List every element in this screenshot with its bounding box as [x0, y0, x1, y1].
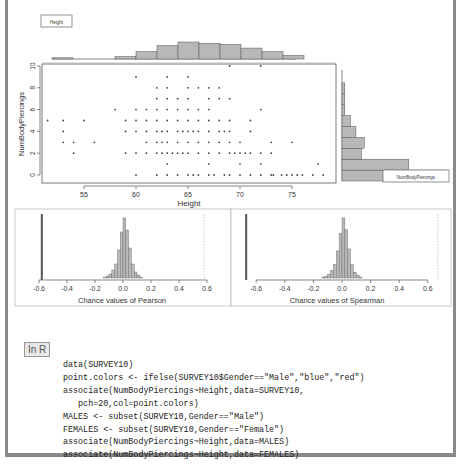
tick-label: 0.2: [366, 285, 376, 292]
permutation-bar: [140, 277, 143, 278]
scatter-x-tick-label: 75: [288, 191, 296, 198]
scatter-point: [224, 131, 226, 133]
scatter-point: [83, 120, 85, 122]
legend-height: Height: [41, 15, 72, 27]
tick-label: 0.0: [337, 285, 347, 292]
scatter-point: [291, 174, 293, 176]
scatter-point: [62, 120, 64, 122]
permutation-bar: [137, 275, 140, 278]
scatter-point: [270, 141, 272, 143]
permutation-bar: [131, 264, 134, 278]
scatter-point: [73, 141, 75, 143]
tick-label: -0.6: [33, 285, 45, 292]
scatter-point: [270, 152, 272, 154]
top-hist-bar: [241, 48, 262, 59]
scatter-point: [260, 174, 262, 176]
top-hist-bar: [52, 58, 73, 59]
scatter-point: [187, 98, 189, 100]
scatter-point: [272, 174, 274, 176]
tick-label: 0.4: [174, 285, 184, 292]
scatter-y-tick-label: 4: [29, 129, 36, 133]
scatter-point: [198, 131, 200, 133]
scatter-point: [312, 174, 314, 176]
scatter-point: [166, 109, 168, 111]
scatter-point: [208, 141, 210, 143]
scatter-point: [260, 152, 262, 154]
scatter-point: [146, 109, 148, 111]
scatter-point: [208, 98, 210, 100]
scatter-point: [244, 152, 246, 154]
permutation-bar: [129, 248, 132, 278]
scatter-point: [135, 120, 137, 122]
right-hist-bar: [342, 83, 345, 94]
top-hist-bar: [220, 44, 241, 59]
scatter-point: [187, 174, 189, 176]
scatter-point: [146, 131, 148, 133]
scatter-y-label: NumBodyPiercings: [17, 92, 26, 156]
scatter-plot-box: [42, 64, 336, 183]
scatter-point: [187, 152, 189, 154]
scatter-point: [166, 152, 168, 154]
permutation-bar: [359, 277, 362, 278]
spearman-x-label: Chance values of Spearman: [290, 296, 385, 305]
scatter-point: [166, 98, 168, 100]
permutation-bar: [348, 249, 351, 278]
scatter-point: [187, 87, 189, 89]
r-code-block: data(SURVEY10) point.colors <- ifelse(SU…: [63, 359, 365, 462]
scatter-point: [166, 174, 168, 176]
scatter-point: [218, 120, 220, 122]
scatter-point: [250, 131, 252, 133]
scatter-point: [114, 109, 116, 111]
scatter-point: [166, 131, 168, 133]
tick-label: 0.6: [423, 285, 433, 292]
in-r-label: In R: [24, 342, 50, 357]
scatter-point: [47, 120, 49, 122]
scatter-point: [156, 131, 158, 133]
permutation-bar: [123, 218, 126, 278]
scatter-y-tick-label: 0: [29, 173, 36, 177]
scatter-point: [213, 174, 215, 176]
scatter-point: [218, 98, 220, 100]
scatter-point: [146, 120, 148, 122]
scatter-point: [177, 141, 179, 143]
scatter-point: [62, 141, 64, 143]
scatter-point: [234, 152, 236, 154]
scatter-point: [177, 120, 179, 122]
right-hist-bar: [342, 137, 364, 148]
tick-label: -0.2: [89, 285, 101, 292]
scatter-point: [218, 131, 220, 133]
pearson-x-label: Chance values of Pearson: [78, 296, 166, 305]
scatter-point: [239, 141, 241, 143]
scatter-y-tick-label: 6: [29, 107, 36, 111]
scatter-point: [187, 76, 189, 78]
scatter-point: [229, 141, 231, 143]
top-hist-bar: [178, 42, 199, 59]
scatter-point: [208, 131, 210, 133]
scatter-point: [161, 152, 163, 154]
permutation-bar: [115, 264, 118, 278]
scatter-point: [260, 65, 262, 67]
scatter-point: [156, 87, 158, 89]
scatter-point: [135, 109, 137, 111]
scatter-point: [229, 98, 231, 100]
legend-numbodypiercings-label: NumBodyPiercings: [397, 175, 436, 180]
scatter-point: [187, 120, 189, 122]
permutation-bar: [339, 233, 342, 278]
scatter-point: [156, 120, 158, 122]
scatter-point: [187, 109, 189, 111]
permutation-bar: [103, 277, 106, 278]
permutation-bar: [356, 275, 359, 278]
scatter-point: [125, 120, 127, 122]
scatter-y-tick-label: 10: [29, 62, 36, 70]
permutation-bar: [120, 232, 123, 278]
scatter-point: [296, 174, 298, 176]
scatter-x-tick-label: 55: [80, 191, 88, 198]
scatter-point: [94, 141, 96, 143]
scatter-point: [239, 163, 241, 165]
scatter-point: [166, 76, 168, 78]
scatter-point: [166, 87, 168, 89]
permutation-bar: [322, 277, 325, 278]
scatter-point: [198, 174, 200, 176]
scatter-point: [229, 152, 231, 154]
scatter-point: [198, 141, 200, 143]
